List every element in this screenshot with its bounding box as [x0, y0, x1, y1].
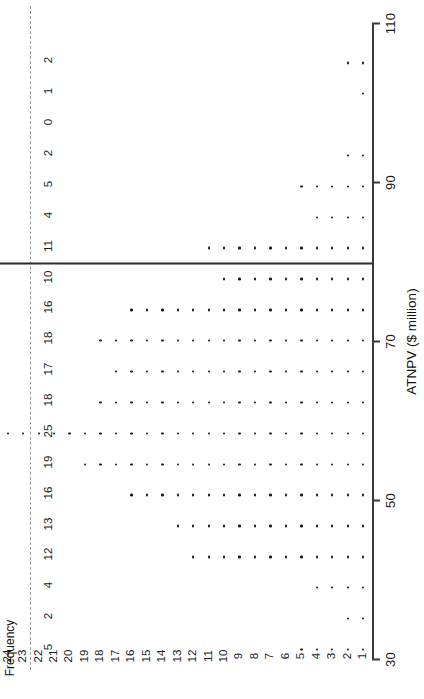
data-dot — [223, 308, 225, 310]
frequency-label: 11 — [42, 236, 54, 256]
data-dot — [7, 432, 9, 434]
data-dot — [177, 463, 179, 465]
data-dot — [316, 555, 318, 557]
data-dot — [331, 216, 333, 218]
data-dot — [223, 370, 225, 372]
data-dot — [238, 370, 240, 372]
data-dot — [285, 493, 287, 495]
data-dot — [269, 401, 271, 403]
frequency-label: 19 — [42, 452, 54, 472]
count-scale-label: 14 — [155, 647, 167, 665]
data-dot — [362, 339, 364, 341]
count-scale-label: 11 — [202, 647, 214, 665]
data-dot — [161, 401, 163, 403]
data-dot — [331, 463, 333, 465]
axis-tick — [372, 499, 380, 500]
data-dot — [146, 370, 148, 372]
median-reference-line — [0, 262, 372, 264]
axis-tick-label: 110 — [383, 11, 398, 35]
count-scale-label: 1 — [356, 647, 368, 665]
data-dot — [238, 463, 240, 465]
data-dot — [238, 246, 240, 248]
data-dot — [300, 401, 302, 403]
data-dot — [269, 246, 271, 248]
frequency-label: 17 — [42, 359, 54, 379]
data-dot — [300, 555, 302, 557]
data-dot — [238, 308, 240, 310]
data-dot — [99, 463, 101, 465]
data-dot — [331, 185, 333, 187]
count-scale-label: 21 — [47, 647, 59, 665]
data-dot — [347, 154, 349, 156]
data-dot — [177, 401, 179, 403]
data-dot — [130, 339, 132, 341]
data-dot — [192, 401, 194, 403]
axis-tick — [372, 658, 380, 659]
data-dot — [238, 555, 240, 557]
data-dot — [300, 432, 302, 434]
data-dot — [300, 339, 302, 341]
rotated-plot-container: 30507090110ATNPV ($ million) — [0, 0, 424, 699]
data-dot — [347, 493, 349, 495]
data-dot — [254, 493, 256, 495]
data-dot — [177, 370, 179, 372]
data-dot — [208, 370, 210, 372]
count-scale-label: 3 — [325, 647, 337, 665]
data-dot — [300, 308, 302, 310]
frequency-label: 13 — [42, 514, 54, 534]
data-dot — [177, 308, 179, 310]
frequency-label: 0 — [42, 112, 54, 132]
data-dot — [254, 555, 256, 557]
frequency-label: 16 — [42, 297, 54, 317]
data-dot — [347, 401, 349, 403]
data-dot — [254, 370, 256, 372]
data-dot — [285, 463, 287, 465]
data-dot — [192, 463, 194, 465]
data-dot — [269, 339, 271, 341]
frequency-label: 2 — [42, 606, 54, 626]
data-dot — [192, 524, 194, 526]
count-scale-label: 5 — [294, 647, 306, 665]
data-dot — [192, 432, 194, 434]
data-dot — [316, 339, 318, 341]
data-dot — [331, 555, 333, 557]
data-dot — [208, 339, 210, 341]
data-dot — [223, 493, 225, 495]
data-dot — [146, 432, 148, 434]
frequency-label: 16 — [42, 483, 54, 503]
count-scale-label: 9 — [232, 647, 244, 665]
data-dot — [161, 339, 163, 341]
data-dot — [331, 586, 333, 588]
data-dot — [161, 370, 163, 372]
data-dot — [177, 524, 179, 526]
data-dot — [269, 277, 271, 279]
data-dot — [208, 401, 210, 403]
data-dot — [347, 586, 349, 588]
count-scale-label: 10 — [217, 647, 229, 665]
data-dot — [362, 246, 364, 248]
data-dot — [362, 432, 364, 434]
data-dot — [285, 339, 287, 341]
data-dot — [115, 339, 117, 341]
data-dot — [269, 524, 271, 526]
data-dot — [208, 555, 210, 557]
data-dot — [285, 370, 287, 372]
data-dot — [300, 185, 302, 187]
data-dot — [208, 463, 210, 465]
data-dot — [130, 432, 132, 434]
data-dot — [285, 401, 287, 403]
data-dot — [177, 339, 179, 341]
data-dot — [285, 555, 287, 557]
data-dot — [331, 493, 333, 495]
data-dot — [254, 463, 256, 465]
data-dot — [316, 401, 318, 403]
count-scale-label: 19 — [78, 647, 90, 665]
data-dot — [362, 277, 364, 279]
data-dot — [115, 401, 117, 403]
count-scale-label: 4 — [310, 647, 322, 665]
chart-canvas: 30507090110ATNPV ($ million) 21025411101… — [0, 0, 424, 699]
data-dot — [300, 246, 302, 248]
data-dot — [347, 617, 349, 619]
data-dot — [192, 493, 194, 495]
data-dot — [238, 493, 240, 495]
